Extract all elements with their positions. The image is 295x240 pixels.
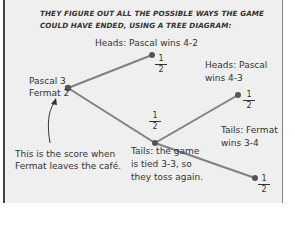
leaf-node-heads-second [235,92,241,98]
heads-second-line1: Heads: Pascal [205,59,267,72]
tails-middle-line1: Tails: the game [131,145,199,158]
tails-middle-line3: they toss again. [131,171,203,184]
tails-second-line1: Tails: Fermat [221,124,278,137]
heads-second-line2: wins 4-3 [205,72,243,85]
heads-top-probability: 12 [155,55,167,74]
branch-tails-middle [68,88,155,143]
branch-heads-top [68,55,152,88]
annotation-line2: Fermat leaves the café. [15,160,121,173]
tails-middle-probability: 12 [149,112,161,131]
tails-middle-line2: is tied 3-3, so [131,158,192,171]
tails-second-probability: 12 [258,175,270,194]
tails-second-line2: wins 3-4 [221,137,259,150]
annotation-arrow-line [48,103,54,143]
heads-second-probability: 12 [243,91,255,110]
heads-top-label: Heads: Pascal wins 4-2 [95,37,198,50]
root-score-fermat: Fermat 2 [29,87,69,100]
